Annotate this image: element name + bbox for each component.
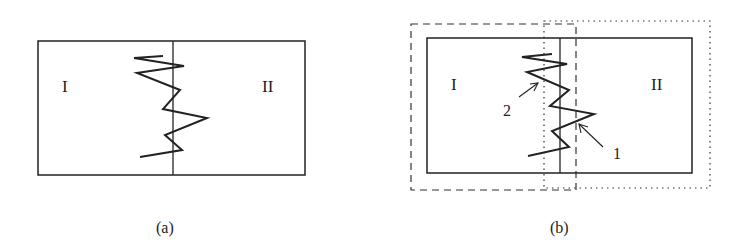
panel-a-caption: (a) [156,219,174,237]
panel-b: 2 1 I II (b) [411,21,710,237]
panel-b-region-left-label: I [451,75,457,94]
panel-b-dotted-box [544,21,710,188]
annotation-label-1: 1 [613,145,621,162]
arrow-1-icon [579,124,603,147]
panel-b-region-right-label: II [651,75,663,94]
panel-a: I II (a) [38,41,305,237]
panel-b-caption: (b) [550,219,569,237]
panel-a-region-left-label: I [62,77,68,96]
figure-canvas: I II (a) 2 1 I II (b) [0,0,749,248]
panel-a-region-right-label: II [262,77,274,96]
panel-b-crack [522,54,594,156]
panel-a-crack [134,56,207,157]
arrow-2-icon [519,83,538,97]
panel-a-box [38,41,305,175]
arrow-2-head-icon [530,83,538,91]
annotation-label-2: 2 [503,102,511,119]
